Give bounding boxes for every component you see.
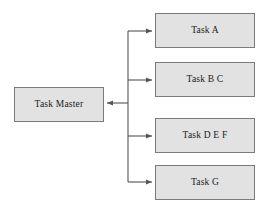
diagram-canvas: Task Master Task A Task B C Task D E F T… [0, 0, 271, 211]
node-task-a-label: Task A [191, 26, 219, 36]
node-task-a[interactable]: Task A [155, 13, 255, 48]
node-task-b-c-label: Task B C [187, 75, 224, 85]
node-task-g-label: Task G [191, 178, 219, 188]
node-task-g[interactable]: Task G [155, 165, 255, 200]
node-task-d-e-f-label: Task D E F [183, 131, 228, 141]
node-task-b-c[interactable]: Task B C [155, 62, 255, 97]
node-task-d-e-f[interactable]: Task D E F [155, 118, 255, 153]
node-task-master-label: Task Master [35, 100, 84, 110]
node-task-master[interactable]: Task Master [14, 87, 104, 122]
